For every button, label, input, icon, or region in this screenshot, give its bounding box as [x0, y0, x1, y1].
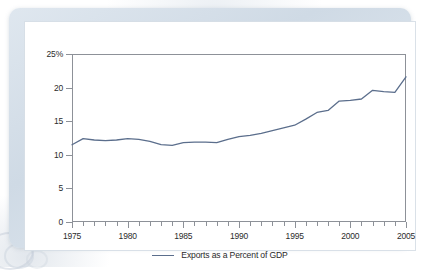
x-axis-minor-tick — [94, 222, 95, 226]
x-axis-tick-label: 2000 — [341, 231, 359, 241]
x-axis-minor-tick — [172, 222, 173, 226]
data-line — [72, 77, 406, 146]
x-axis-minor-tick — [395, 222, 396, 226]
x-axis-major-tick — [295, 222, 296, 228]
x-axis-minor-tick — [373, 222, 374, 226]
x-axis-minor-tick — [317, 222, 318, 226]
x-axis-minor-tick — [284, 222, 285, 226]
x-axis-minor-tick — [361, 222, 362, 226]
y-axis-tick-label: 10 — [54, 150, 63, 160]
x-axis-minor-tick — [261, 222, 262, 226]
x-axis-tick-label: 1995 — [286, 231, 304, 241]
x-axis-minor-tick — [139, 222, 140, 226]
x-axis-tick-label: 1980 — [119, 231, 137, 241]
x-axis-minor-tick — [328, 222, 329, 226]
y-axis-tick-label: 5 — [58, 183, 63, 193]
x-axis-tick-label: 1990 — [230, 231, 248, 241]
x-axis-minor-tick — [217, 222, 218, 226]
x-axis-minor-tick — [339, 222, 340, 226]
x-axis-minor-tick — [117, 222, 118, 226]
y-axis-tick-label: 25% — [47, 49, 63, 59]
x-axis-minor-tick — [228, 222, 229, 226]
x-axis-minor-tick — [194, 222, 195, 226]
x-axis-minor-tick — [206, 222, 207, 226]
plot-area: 0510152025% 1975198019851990199520002005 — [72, 54, 406, 222]
figure-frame: 0510152025% 1975198019851990199520002005… — [9, 8, 411, 248]
x-axis-minor-tick — [150, 222, 151, 226]
x-axis-minor-tick — [83, 222, 84, 226]
legend: Exports as a Percent of GDP — [25, 250, 415, 260]
x-axis-major-tick — [72, 222, 73, 228]
y-axis-tick-label: 15 — [54, 116, 63, 126]
figure-canvas: 0510152025% 1975198019851990199520002005… — [25, 22, 415, 250]
x-axis-tick-label: 1975 — [63, 231, 81, 241]
x-axis-major-tick — [128, 222, 129, 228]
x-axis-minor-tick — [105, 222, 106, 226]
x-axis-major-tick — [350, 222, 351, 228]
y-axis-tick-label: 20 — [54, 83, 63, 93]
x-axis-minor-tick — [306, 222, 307, 226]
x-axis-major-tick — [183, 222, 184, 228]
series-exports-line — [72, 54, 406, 222]
x-axis-minor-tick — [272, 222, 273, 226]
x-axis-tick-label: 2005 — [397, 231, 415, 241]
legend-label: Exports as a Percent of GDP — [181, 250, 287, 260]
x-axis-minor-tick — [250, 222, 251, 226]
x-axis-minor-tick — [161, 222, 162, 226]
x-axis-minor-tick — [384, 222, 385, 226]
x-axis-tick-label: 1985 — [174, 231, 192, 241]
legend-swatch-icon — [152, 255, 174, 256]
x-axis-major-tick — [406, 222, 407, 228]
y-axis-tick-label: 0 — [58, 217, 63, 227]
x-axis-major-tick — [239, 222, 240, 228]
